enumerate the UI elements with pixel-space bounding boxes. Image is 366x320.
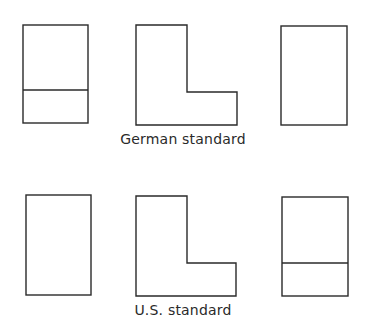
german-right-view	[281, 26, 347, 125]
german-standard-caption: German standard	[0, 131, 366, 147]
german-center-view-l-shape	[136, 25, 237, 125]
german-standard-row	[23, 25, 347, 125]
us-right-view	[282, 197, 348, 296]
us-standard-caption: U.S. standard	[0, 302, 366, 318]
projection-diagram	[0, 0, 366, 320]
german-left-view	[23, 25, 88, 123]
us-left-view	[26, 195, 91, 295]
us-center-view-l-shape	[136, 196, 236, 296]
us-standard-row	[26, 195, 348, 296]
